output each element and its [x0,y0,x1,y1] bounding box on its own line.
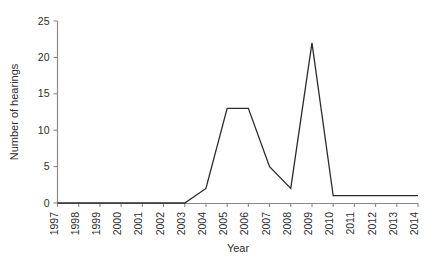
y-tick-label: 0 [44,197,50,209]
x-tick-label: 1997 [48,212,60,236]
x-tick-label: 2004 [196,212,208,236]
x-tick-label: 2006 [238,212,250,236]
x-tick-label: 2008 [281,212,293,236]
x-tick-label: 2005 [217,212,229,236]
y-tick-label: 5 [44,160,50,172]
x-tick-label: 2010 [323,212,335,236]
y-tick-label: 25 [38,15,50,27]
x-tick-label: 2011 [344,212,356,235]
x-tick-label: 2009 [302,212,314,236]
x-tick-label: 2003 [175,212,187,236]
chart-figure: 0510152025 19971998199920002001200220032… [0,0,439,262]
y-tick-label: 10 [38,124,50,136]
x-tick-label: 2007 [260,212,272,236]
x-tick-label: 1998 [69,212,81,236]
line-chart: 0510152025 19971998199920002001200220032… [0,0,439,262]
x-tick-label: 2014 [408,212,420,236]
x-tick-label: 2001 [132,212,144,236]
x-axis-title: Year [227,242,250,254]
y-tick-label: 20 [38,51,50,63]
x-tick-label: 2000 [111,212,123,236]
x-tick-label: 1999 [90,212,102,236]
x-tick-label: 2012 [366,212,378,236]
x-tick-label: 2002 [154,212,166,236]
y-axis-title: Number of hearings [8,63,20,160]
x-tick-label: 2013 [387,212,399,236]
y-tick-label: 15 [38,87,50,99]
